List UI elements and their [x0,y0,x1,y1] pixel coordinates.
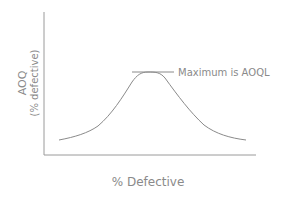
aoq-curve [59,72,246,140]
y-axis-label-line2: (% defective) [29,49,40,116]
aoq-chart: Maximum is AOQL % Defective AOQ (% defec… [0,0,282,199]
y-axis-label-line1: AOQ [16,70,29,95]
aoql-annotation: Maximum is AOQL [178,67,270,78]
x-axis-label: % Defective [112,175,185,189]
